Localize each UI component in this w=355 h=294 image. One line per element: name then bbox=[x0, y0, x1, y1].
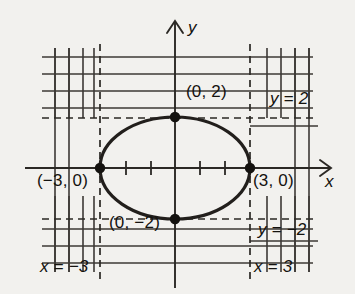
axis-lines bbox=[25, 22, 330, 288]
label-line-x-positive: x = 3 bbox=[254, 257, 292, 277]
point-neg3-0 bbox=[95, 163, 105, 173]
ellipse-graph-figure: (0, 2) (0, −2) (−3, 0) (3, 0) y = 2 y = … bbox=[0, 0, 355, 294]
label-point-top: (0, 2) bbox=[186, 82, 227, 102]
point-0-2 bbox=[170, 112, 180, 122]
graph-canvas bbox=[0, 0, 355, 294]
x-axis-label: x bbox=[325, 172, 334, 192]
label-line-x-negative: x = −3 bbox=[40, 257, 88, 277]
y-axis-label: y bbox=[188, 18, 197, 38]
label-point-right: (3, 0) bbox=[253, 171, 294, 191]
label-line-y-positive: y = 2 bbox=[270, 89, 308, 109]
label-point-bottom: (0, −2) bbox=[109, 213, 160, 233]
left-band-vertical-lines bbox=[55, 48, 94, 272]
label-point-left: (−3, 0) bbox=[37, 171, 88, 191]
label-line-y-negative: y = −2 bbox=[258, 220, 306, 240]
point-0-neg2 bbox=[170, 214, 180, 224]
